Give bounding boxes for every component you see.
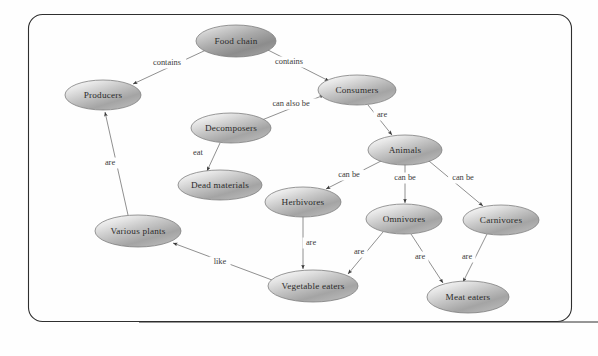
- edge-decomposers-to-dead_materials: [207, 143, 220, 171]
- node-label: Dead materials: [191, 180, 249, 190]
- node-label: Vegetable eaters: [281, 281, 344, 291]
- edge-label-e8: can be: [448, 173, 478, 184]
- node-producers[interactable]: Producers: [65, 80, 141, 110]
- edge-label-text: are: [377, 110, 388, 119]
- edge-label-e10: are: [351, 247, 368, 258]
- edge-label-e11: are: [412, 252, 429, 263]
- edge-label-text: can be: [394, 173, 416, 182]
- edge-label-e14: like: [209, 257, 230, 268]
- edge-label-e13: are: [102, 158, 119, 169]
- node-animals[interactable]: Animals: [368, 135, 442, 165]
- edge-label-text: eat: [193, 148, 203, 157]
- edge-label-e9: are: [303, 238, 320, 249]
- node-label: Consumers: [335, 85, 378, 95]
- node-carnivores[interactable]: Carnivores: [463, 205, 539, 235]
- edge-label-e4: eat: [190, 148, 207, 159]
- node-dead_materials[interactable]: Dead materials: [178, 170, 262, 200]
- edge-label-text: can also be: [272, 99, 309, 108]
- edge-label-text: are: [306, 238, 317, 247]
- edge-label-text: are: [354, 247, 365, 256]
- edge-label-text: are: [105, 158, 116, 167]
- edge-label-e5: are: [374, 110, 391, 121]
- edge-label-text: are: [462, 252, 473, 261]
- edge-label-text: can be: [452, 173, 474, 182]
- node-omnivores[interactable]: Omnivores: [366, 204, 442, 234]
- edge-label-e3: can also be: [265, 99, 316, 110]
- edge-label-e12: are: [459, 252, 476, 263]
- edge-label-text: are: [415, 252, 426, 261]
- node-meat_eaters[interactable]: Meat eaters: [427, 281, 509, 313]
- node-label: Decomposers: [205, 123, 257, 133]
- edge-label-text: like: [214, 257, 227, 266]
- node-label: Animals: [389, 145, 422, 155]
- figure-container: containscontainscan also beeatarecan bec…: [0, 0, 598, 356]
- edge-label-e6: can be: [334, 170, 364, 181]
- node-label: Food chain: [214, 36, 257, 46]
- node-decomposers[interactable]: Decomposers: [191, 113, 271, 143]
- edge-label-e7: can be: [390, 173, 420, 184]
- node-label: Herbivores: [282, 197, 325, 207]
- nodes-layer: Food chainProducersConsumersDecomposersD…: [65, 25, 539, 313]
- edge-label-e2: contains: [270, 57, 308, 68]
- node-label: Meat eaters: [446, 292, 491, 302]
- edges-layer: [105, 49, 487, 283]
- node-various_plants[interactable]: Various plants: [95, 215, 181, 247]
- node-label: Various plants: [110, 226, 165, 236]
- edge-label-e1: contains: [148, 58, 186, 69]
- node-label: Producers: [84, 90, 123, 100]
- concept-map-diagram: containscontainscan also beeatarecan bec…: [0, 0, 598, 356]
- node-herbivores[interactable]: Herbivores: [265, 187, 341, 217]
- node-food_chain[interactable]: Food chain: [196, 25, 276, 57]
- edge-label-text: can be: [338, 170, 360, 179]
- node-label: Omnivores: [383, 214, 426, 224]
- caption-bar: Figure 7.2 Concept map of food chain.: [0, 316, 598, 356]
- edge-label-text: contains: [275, 57, 303, 66]
- node-label: Carnivores: [480, 215, 523, 225]
- edge-label-text: contains: [153, 58, 181, 67]
- node-consumers[interactable]: Consumers: [318, 75, 396, 105]
- node-vegetable_eaters[interactable]: Vegetable eaters: [268, 270, 358, 302]
